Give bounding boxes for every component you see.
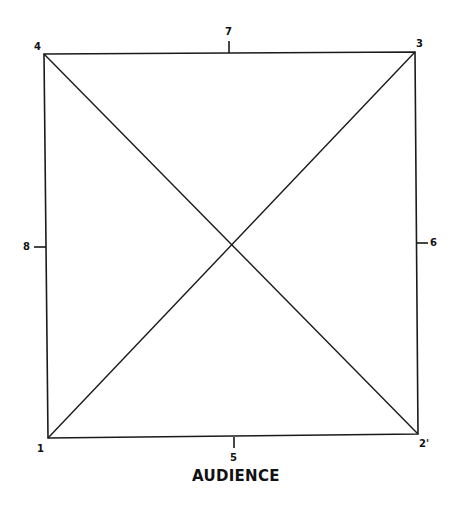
corner-label-3: 3 xyxy=(416,39,423,49)
midpoint-label-7: 7 xyxy=(225,27,232,37)
diagonal-1-to-3 xyxy=(48,52,415,438)
corner-label-1: 1 xyxy=(37,444,44,454)
diagonal-4-to-2 xyxy=(44,54,418,434)
stage-diagram xyxy=(0,0,461,508)
midpoint-label-8: 8 xyxy=(23,242,30,252)
corner-label-4: 4 xyxy=(34,42,41,52)
midpoint-label-6: 6 xyxy=(430,238,437,248)
midpoint-label-5: 5 xyxy=(230,453,237,463)
corner-label-2: 2' xyxy=(419,439,429,449)
audience-caption: AUDIENCE xyxy=(192,467,280,485)
